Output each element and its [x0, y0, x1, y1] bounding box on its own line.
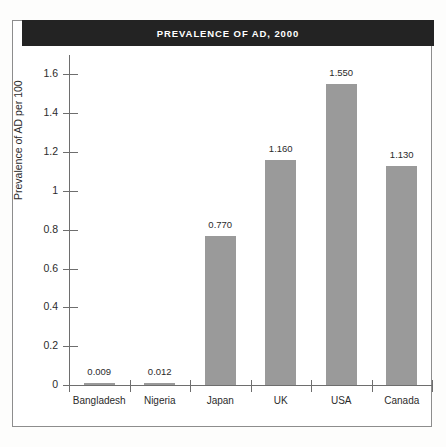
category-label: Canada	[357, 395, 446, 406]
y-tick-label: 1.2	[0, 145, 58, 157]
x-tick-mark	[432, 380, 433, 392]
y-tick-label: 1	[0, 184, 58, 196]
y-tick-label: 0.6	[0, 262, 58, 274]
plot-area: 00.20.40.60.811.21.41.6 0.0090.0120.7701…	[69, 55, 432, 386]
y-tick-mark	[63, 307, 78, 308]
y-tick-label: 0.4	[0, 300, 58, 312]
bar-value-label: 0.012	[120, 366, 200, 377]
bar	[144, 383, 175, 385]
y-tick-mark	[63, 74, 78, 75]
bar-value-label: 1.550	[301, 67, 381, 78]
x-tick-mark	[372, 380, 373, 392]
bar-value-label: 0.770	[180, 219, 260, 230]
y-tick-label: 0	[0, 378, 58, 390]
x-tick-mark	[130, 380, 131, 392]
x-tick-mark	[311, 380, 312, 392]
y-tick-label: 1.4	[0, 106, 58, 118]
y-tick-mark	[63, 113, 78, 114]
x-tick-mark	[190, 380, 191, 392]
y-tick-label: 1.6	[0, 67, 58, 79]
y-tick-mark	[63, 152, 78, 153]
chart-title-banner: PREVALENCE OF AD, 2000	[22, 20, 434, 46]
y-tick-mark	[63, 269, 78, 270]
y-tick-mark	[63, 385, 78, 386]
y-tick-label: 0.2	[0, 339, 58, 351]
chart-title: PREVALENCE OF AD, 2000	[157, 28, 299, 39]
y-tick-mark	[63, 346, 78, 347]
y-tick-label: 0.8	[0, 223, 58, 235]
y-tick-mark	[63, 230, 78, 231]
bar-value-label: 1.160	[241, 143, 321, 154]
x-tick-mark	[251, 380, 252, 392]
bar	[265, 160, 296, 385]
bar	[386, 166, 417, 385]
y-tick-mark	[63, 191, 78, 192]
bar	[205, 236, 236, 385]
bar	[84, 383, 115, 385]
bar	[326, 84, 357, 385]
bar-value-label: 1.130	[362, 149, 442, 160]
x-tick-mark	[69, 380, 70, 392]
y-axis-line	[69, 55, 70, 386]
figure-canvas: PREVALENCE OF AD, 2000 Prevalence of AD …	[0, 0, 446, 447]
